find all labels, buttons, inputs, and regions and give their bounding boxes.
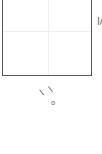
plot-area <box>2 0 92 76</box>
partial-side-label: |/ <box>97 17 102 25</box>
partial-tick-label: \ \ <box>39 84 55 97</box>
horizontal-gridline <box>3 31 91 32</box>
partial-tick-marker: o <box>51 99 55 107</box>
vertical-gridline <box>48 0 49 75</box>
